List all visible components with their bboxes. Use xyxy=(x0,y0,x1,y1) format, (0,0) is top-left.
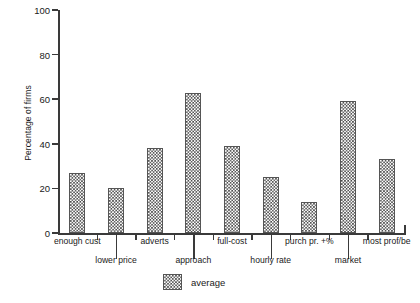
y-axis-tick-label: 20 xyxy=(39,183,50,194)
x-axis-category-label: adverts xyxy=(141,236,169,246)
y-axis-tick-label: 80 xyxy=(39,49,50,60)
x-axis-category-label: market xyxy=(335,255,361,265)
x-axis-right-stub xyxy=(404,225,406,234)
x-axis-category-label: most prof/be xyxy=(363,236,411,246)
x-axis-line xyxy=(58,233,406,235)
y-axis-tick-label: 0 xyxy=(45,228,50,239)
y-axis-line xyxy=(58,10,60,233)
y-axis-tick-label: 40 xyxy=(39,138,50,149)
x-axis-category-label: hourly rate xyxy=(250,255,291,265)
x-axis-category-label: enough cust xyxy=(54,236,101,246)
chart-legend: average xyxy=(163,274,225,290)
x-axis-category-label: lower price xyxy=(95,255,137,265)
y-axis-tick xyxy=(52,9,58,11)
bar xyxy=(69,173,85,233)
bar xyxy=(224,146,240,233)
y-axis-title: Percentage of firms xyxy=(23,48,33,198)
x-axis-separator-tick xyxy=(251,233,252,240)
x-axis-separator-tick xyxy=(135,233,136,240)
legend-swatch-average xyxy=(163,274,182,290)
bar xyxy=(301,202,317,233)
y-axis-tick xyxy=(52,188,58,190)
bar xyxy=(108,188,124,233)
bar xyxy=(340,101,356,233)
y-axis-tick xyxy=(52,232,58,234)
y-axis-tick xyxy=(52,54,58,56)
x-axis-category-label: full-cost xyxy=(217,236,247,246)
y-axis-tick-label: 60 xyxy=(39,94,50,105)
x-axis-category-label: approach xyxy=(175,255,211,265)
bar xyxy=(185,93,201,233)
plot-area: 020406080100 xyxy=(58,10,406,233)
bar-chart: Percentage of firms 020406080100 enough … xyxy=(0,0,420,303)
y-axis-tick xyxy=(52,143,58,145)
legend-label-average: average xyxy=(191,277,225,288)
bar xyxy=(263,177,279,233)
bar xyxy=(147,148,163,233)
x-axis-separator-tick xyxy=(213,233,214,240)
x-axis-separator-tick xyxy=(174,233,175,240)
x-axis-category-label: purch pr. +% xyxy=(285,236,334,246)
bar xyxy=(379,159,395,233)
y-axis-tick xyxy=(52,98,58,100)
y-axis-tick-label: 100 xyxy=(34,5,50,16)
